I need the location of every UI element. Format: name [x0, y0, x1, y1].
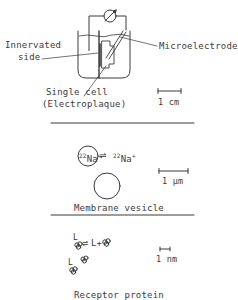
microelectrode — [106, 31, 123, 58]
scale-bar-1um-label: 1 µm — [162, 176, 183, 186]
free-ligand-label: L+ — [91, 238, 102, 248]
isotope: 22 — [113, 152, 121, 159]
innervated-side-label: Innervated — [5, 40, 61, 50]
electroplaque-label: (Electroplaque) — [42, 99, 126, 109]
scale-bar-1cm-label: 1 cm — [158, 97, 179, 107]
equilibrium-arrow-2: ⇌ — [82, 238, 88, 248]
microelectrode-label: Microelectrode — [159, 41, 238, 51]
bound-ligand-label-2: L — [68, 258, 73, 268]
ion: Na — [87, 154, 98, 164]
bound-ligand-label: L — [73, 233, 78, 243]
receptor-protein-loose — [81, 256, 88, 263]
liquid-surface — [79, 34, 129, 37]
receptor-protein-free — [103, 239, 110, 246]
isotope: 22 — [79, 152, 87, 159]
receptor-protein-caption: Receptor protein — [74, 290, 164, 300]
ion: Na — [121, 154, 132, 164]
membrane-vesicle — [94, 173, 120, 199]
inside-na-label: 22Na+ — [79, 151, 102, 164]
equilibrium-arrow-1: ⇌ — [100, 151, 107, 161]
charge: + — [132, 152, 136, 159]
single-cell-label: Single cell — [46, 87, 108, 97]
innervated-side-label-2: side — [18, 52, 40, 62]
scale-bar-1nm-label: 1 nm — [156, 254, 177, 264]
membrane-vesicle-caption: Membrane vesicle — [74, 203, 164, 213]
outside-na-label: 22Na+ — [113, 151, 136, 164]
